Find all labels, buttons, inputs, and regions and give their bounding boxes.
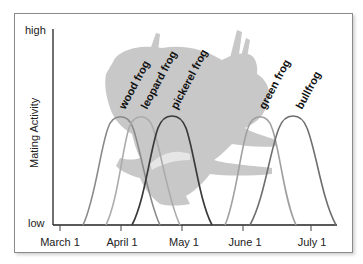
y-label-high: high — [25, 24, 46, 36]
x-ticks — [60, 225, 311, 231]
x-tick-may: May 1 — [169, 236, 199, 248]
mating-activity-chart: March 1 April 1 May 1 June 1 July 1 high… — [0, 0, 363, 264]
x-tick-april: April 1 — [106, 236, 137, 248]
label-bullfrog: bullfrog — [293, 69, 323, 111]
frog-silhouette-icon — [105, 30, 276, 206]
x-tick-july: July 1 — [298, 236, 327, 248]
y-axis-title: Mating Activity — [28, 97, 40, 168]
y-label-low: low — [28, 217, 45, 229]
x-tick-march: March 1 — [40, 236, 80, 248]
x-tick-june: June 1 — [228, 236, 261, 248]
